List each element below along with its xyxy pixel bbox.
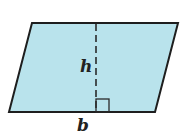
base-label: b [77,115,89,132]
height-label: h [80,56,92,76]
parallelogram-shape [9,23,178,112]
parallelogram-diagram: h b [0,0,183,132]
